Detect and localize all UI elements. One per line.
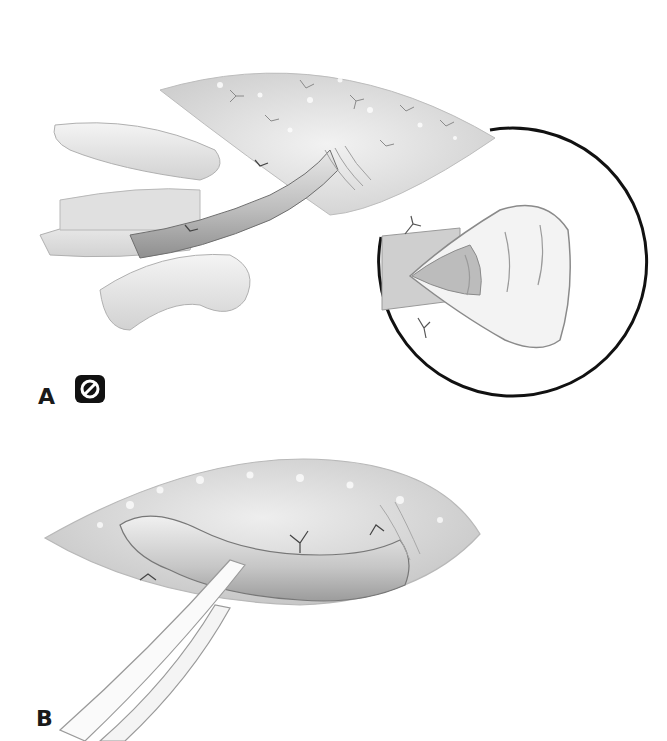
panel-b-illustration: [0, 430, 667, 741]
panel-label-a: A: [38, 386, 55, 408]
vessel-loop: [60, 560, 245, 741]
panel-a-illustration: [0, 0, 667, 430]
panel-label-b: B: [36, 708, 53, 730]
prohibited-icon: [75, 375, 105, 403]
panel-a: A: [0, 0, 667, 430]
panel-b: B: [0, 430, 667, 741]
incision-a: [160, 73, 495, 215]
